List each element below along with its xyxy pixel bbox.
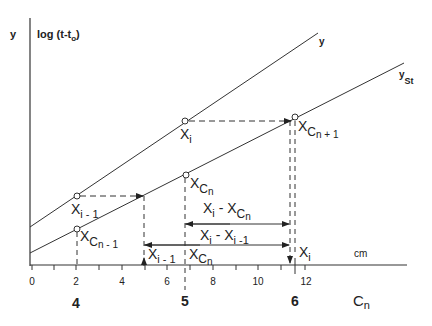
label-base-xcn: XCn <box>189 246 213 267</box>
line-y-st-label: ySt <box>399 69 414 86</box>
x-tick-12: 12 <box>300 276 312 287</box>
label-xi: Xi <box>180 126 192 145</box>
y-axis-title: log (t-to) <box>37 28 80 43</box>
line-y-label: y <box>319 36 325 47</box>
label-diff-xi-xi1: Xi - Xi -1 <box>200 227 249 246</box>
label-xcn-minus-1: XCn - 1 <box>80 228 118 250</box>
diagram-canvas: 0 2 4 6 8 10 12 4 5 6 Cn cm y log (t-to)… <box>0 0 432 326</box>
line-y <box>30 33 318 227</box>
label-base-xi: Xi <box>299 244 311 263</box>
x-tick-2: 2 <box>73 276 79 287</box>
y-axis-label: y <box>10 28 17 40</box>
cn-tick-5: 5 <box>181 293 189 309</box>
cn-tick-4: 4 <box>72 295 80 311</box>
label-diff-xi-xcn: Xi - XCn <box>203 200 251 222</box>
point-xcn <box>183 172 189 178</box>
x-tick-4: 4 <box>119 276 125 287</box>
x-tick-10: 10 <box>252 276 264 287</box>
cn-tick-6: 6 <box>291 293 299 309</box>
x-tick-6: 6 <box>164 276 170 287</box>
point-xi-minus-1 <box>74 193 80 199</box>
label-xi-minus-1: Xi - 1 <box>71 201 99 220</box>
x-unit-label: cm <box>354 248 367 259</box>
label-xcn: XCn <box>190 175 214 197</box>
label-xcn-plus-1: XCn + 1 <box>298 118 339 140</box>
x-tick-8: 8 <box>210 276 216 287</box>
label-base-xi-minus-1: Xi - 1 <box>148 246 176 265</box>
point-xi <box>182 118 188 124</box>
cn-axis-label: Cn <box>353 292 370 311</box>
x-tick-0: 0 <box>29 276 35 287</box>
